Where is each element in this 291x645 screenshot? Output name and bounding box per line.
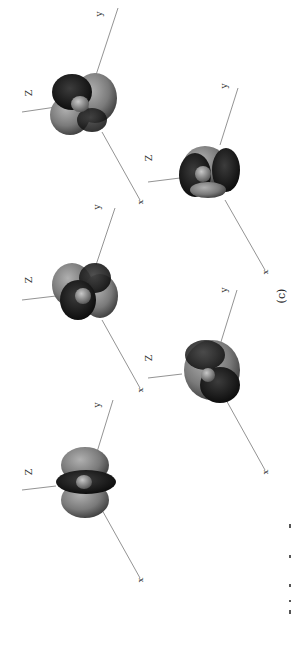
clipped-caption-fragment — [289, 610, 291, 614]
z-axis — [148, 178, 180, 182]
orbital-figure: Z y x Z y x Z y x — [0, 0, 291, 645]
z-axis-label: Z — [144, 155, 154, 161]
orbital-isosurface — [52, 263, 118, 320]
z-axis — [22, 486, 56, 490]
y-axis — [220, 290, 237, 345]
z-axis — [148, 374, 182, 378]
x-axis — [225, 398, 265, 470]
x-axis — [225, 200, 265, 270]
orbital-isosurface — [56, 447, 116, 518]
x-axis — [102, 132, 140, 200]
z-axis-label: Z — [24, 277, 34, 283]
orbital-isosurface — [179, 146, 240, 198]
figure-sublabel: (c) — [275, 289, 288, 304]
x-axis-label: x — [136, 199, 145, 204]
y-axis — [220, 88, 238, 145]
x-axis-label: x — [261, 469, 270, 474]
orbital-panel-5: Z y x — [22, 400, 145, 582]
z-axis-label: Z — [24, 469, 34, 475]
x-axis-label: x — [136, 387, 145, 392]
orbital-panel-1: Z y x — [22, 8, 145, 204]
x-axis — [102, 320, 140, 388]
orbital-isosurface — [50, 73, 117, 135]
clipped-caption-fragment — [289, 555, 291, 558]
y-axis-label: y — [219, 287, 229, 294]
z-axis-label: Z — [24, 90, 34, 96]
z-axis — [22, 296, 56, 300]
orbital-panel-2: Z y x — [144, 83, 270, 275]
clipped-caption-fragment — [289, 524, 291, 528]
orbital-panel-4: Z y x — [144, 287, 270, 475]
y-axis — [96, 8, 118, 75]
clipped-caption-fragment — [289, 600, 291, 602]
x-axis-label: x — [136, 577, 145, 582]
orbital-panel-3: Z y x — [22, 204, 145, 393]
y-axis-label: y — [92, 402, 102, 409]
x-axis-label: x — [261, 269, 270, 274]
z-axis-label: Z — [144, 355, 154, 361]
clipped-caption-fragment — [289, 584, 291, 587]
y-axis-label: y — [219, 83, 229, 90]
y-axis — [96, 208, 115, 265]
y-axis-label: y — [92, 204, 102, 211]
y-axis-label: y — [94, 11, 104, 18]
orbital-isosurface — [184, 340, 240, 403]
x-axis — [102, 510, 140, 578]
